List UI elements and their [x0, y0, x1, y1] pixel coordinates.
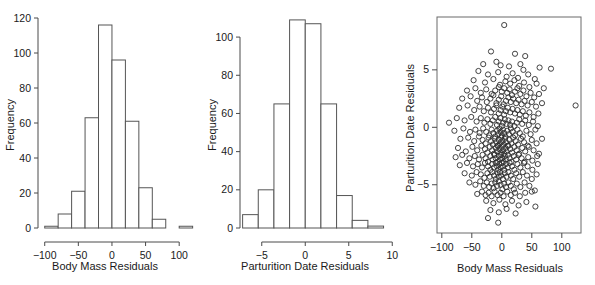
histogram-bar	[99, 25, 112, 228]
scatter-point	[473, 86, 478, 91]
parturition-date-histogram-svg: 020406080100 −50510 Frequency Parturitio…	[200, 0, 400, 285]
y-tick-label: 20	[19, 187, 31, 199]
histogram-bar	[72, 191, 85, 228]
scatter-point	[537, 65, 542, 70]
scatter-point	[527, 110, 532, 115]
scatter-point	[472, 107, 477, 112]
scatter-point	[536, 91, 541, 96]
x-tick-label: 100	[170, 249, 188, 261]
scatter-point	[467, 180, 472, 185]
scatter-point	[478, 116, 483, 121]
scatter-point	[517, 194, 522, 199]
scatter-point	[455, 145, 460, 150]
scatter-point	[510, 71, 515, 76]
scatter-point	[476, 68, 481, 73]
scatter-point	[491, 201, 496, 206]
panel-body-mass-histogram: 020406080100120 −100−50050100 Frequency …	[0, 0, 200, 285]
scatter-point	[482, 80, 487, 85]
residuals-figure: 020406080100120 −100−50050100 Frequency …	[0, 0, 595, 285]
scatter-point	[464, 88, 469, 93]
scatter-point	[530, 158, 535, 163]
y-tick-label: 60	[19, 117, 31, 129]
scatter-point	[457, 163, 462, 168]
scatter-point	[488, 110, 493, 115]
scatter-point	[528, 132, 533, 137]
scatter-point	[491, 76, 496, 81]
scatter-point	[454, 116, 459, 121]
x-axis-parturition-date: −50510	[256, 242, 398, 261]
scatter-point	[523, 53, 528, 58]
scatter-point	[524, 173, 529, 178]
scatter-point	[484, 198, 489, 203]
y-tick-label: 40	[221, 145, 233, 157]
y-tick-label: 5	[423, 63, 429, 75]
histogram-bar	[352, 220, 368, 228]
scatter-point	[512, 51, 517, 56]
scatter-point	[498, 63, 503, 68]
x-axis-title-parturition-date: Parturition Date Residuals	[241, 260, 369, 272]
scatter-point	[480, 152, 485, 157]
histogram-bars-body-mass	[45, 25, 193, 228]
histogram-bar	[112, 60, 125, 228]
scatter-point	[511, 187, 516, 192]
scatter-point	[533, 204, 538, 209]
scatter-point	[573, 103, 578, 108]
y-tick-label: −5	[417, 178, 429, 190]
panel-parturition-date-histogram: 020406080100 −50510 Frequency Parturitio…	[200, 0, 400, 285]
y-tick-label: 60	[221, 107, 233, 119]
scatter-point	[461, 126, 466, 131]
scatter-point	[496, 210, 501, 215]
panel-residuals-scatter: −505 −100−50050100 Parturition Date Resi…	[400, 0, 595, 285]
scatter-point	[548, 66, 553, 71]
scatter-point	[523, 190, 528, 195]
scatter-point	[481, 126, 486, 131]
scatter-point	[534, 172, 539, 177]
x-tick-label: −50	[463, 241, 481, 253]
scatter-point	[469, 173, 474, 178]
scatter-point	[488, 207, 493, 212]
scatter-point	[532, 188, 537, 193]
x-tick-label: 0	[499, 241, 505, 253]
histogram-bar	[305, 24, 321, 228]
scatter-point	[470, 144, 475, 149]
scatter-point	[475, 148, 480, 153]
scatter-point	[497, 197, 502, 202]
scatter-point	[464, 160, 469, 165]
scatter-point	[523, 149, 528, 154]
y-tick-label: 40	[19, 152, 31, 164]
histogram-bar	[274, 104, 290, 228]
y-tick-label: 0	[423, 121, 429, 133]
y-tick-label: 100	[13, 47, 31, 59]
scatter-point	[465, 103, 470, 108]
scatter-point	[446, 120, 451, 125]
y-tick-label: 20	[221, 183, 233, 195]
x-axis-scatter: −100−50050100	[430, 233, 571, 253]
scatter-point	[531, 148, 536, 153]
scatter-point	[484, 129, 489, 134]
histogram-bar	[258, 190, 274, 228]
scatter-point	[513, 211, 518, 216]
scatter-point	[482, 120, 487, 125]
x-axis-title-body-mass: Body Mass Residuals	[52, 260, 158, 272]
scatter-point	[467, 129, 472, 134]
histogram-bar	[45, 226, 58, 228]
histogram-bar	[290, 20, 306, 228]
scatter-point	[525, 164, 530, 169]
scatter-point	[460, 152, 465, 157]
scatter-point	[471, 78, 476, 83]
scatter-point	[460, 96, 465, 101]
scatter-point	[473, 182, 478, 187]
scatter-point	[521, 80, 526, 85]
y-axis-body-mass: 020406080100120	[13, 12, 38, 234]
scatter-point	[478, 179, 483, 184]
scatter-point	[502, 22, 507, 27]
x-tick-label: 10	[386, 249, 398, 261]
scatter-point	[481, 183, 486, 188]
scatter-point	[535, 161, 540, 166]
histogram-bar	[58, 214, 71, 228]
body-mass-histogram-svg: 020406080100120 −100−50050100 Frequency …	[0, 0, 200, 285]
y-tick-label: 0	[25, 222, 31, 234]
residuals-scatter-svg: −505 −100−50050100 Parturition Date Resi…	[400, 0, 595, 285]
scatter-point	[527, 84, 532, 89]
y-tick-label: 80	[221, 69, 233, 81]
